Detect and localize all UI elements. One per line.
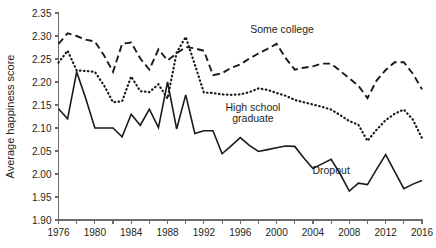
series-annotations: Some collegeHigh schoolgraduateDropout	[226, 23, 350, 176]
series-label-line: graduate	[232, 112, 274, 124]
x-tick-label: 1988	[156, 227, 179, 238]
y-tick-label: 1.90	[32, 215, 52, 226]
series-label-dropout: Dropout	[312, 164, 349, 176]
chart-canvas: 1.901.952.002.052.102.152.202.252.302.35…	[0, 0, 436, 248]
y-tick-label: 2.15	[32, 100, 52, 111]
x-tick-label: 1984	[120, 227, 143, 238]
series-label-line: High school	[226, 101, 281, 113]
y-tick-label: 2.10	[32, 123, 52, 134]
series-line-some-college	[59, 33, 423, 98]
axis-titles: Average happiness score	[4, 55, 16, 179]
x-tick-label: 2016	[411, 227, 434, 238]
y-axis-title: Average happiness score	[4, 55, 16, 179]
y-axis: 1.901.952.002.052.102.152.202.252.302.35	[32, 8, 58, 226]
y-tick-label: 2.00	[32, 169, 52, 180]
x-tick-label: 2004	[302, 227, 325, 238]
y-tick-label: 2.20	[32, 77, 52, 88]
series-line-dropout	[59, 72, 423, 191]
y-tick-label: 1.95	[32, 192, 52, 203]
y-tick-label: 2.25	[32, 54, 52, 65]
x-tick-label: 1996	[229, 227, 252, 238]
x-tick-label: 2008	[338, 227, 361, 238]
happiness-by-education-chart: 1.901.952.002.052.102.152.202.252.302.35…	[0, 0, 436, 248]
series-line-high-school-graduate	[59, 37, 423, 141]
series-label-high-school-graduate: High schoolgraduate	[226, 101, 281, 125]
series-label-some-college: Some college	[250, 23, 314, 35]
x-tick-label: 1976	[47, 227, 70, 238]
x-tick-label: 1992	[193, 227, 216, 238]
y-tick-label: 2.35	[32, 8, 52, 19]
y-tick-label: 2.05	[32, 146, 52, 157]
x-tick-label: 1980	[84, 227, 107, 238]
y-tick-label: 2.30	[32, 31, 52, 42]
x-tick-label: 2000	[265, 227, 288, 238]
x-axis: 1976198019841988199219962000200420082012…	[47, 220, 433, 238]
x-tick-label: 2012	[375, 227, 398, 238]
